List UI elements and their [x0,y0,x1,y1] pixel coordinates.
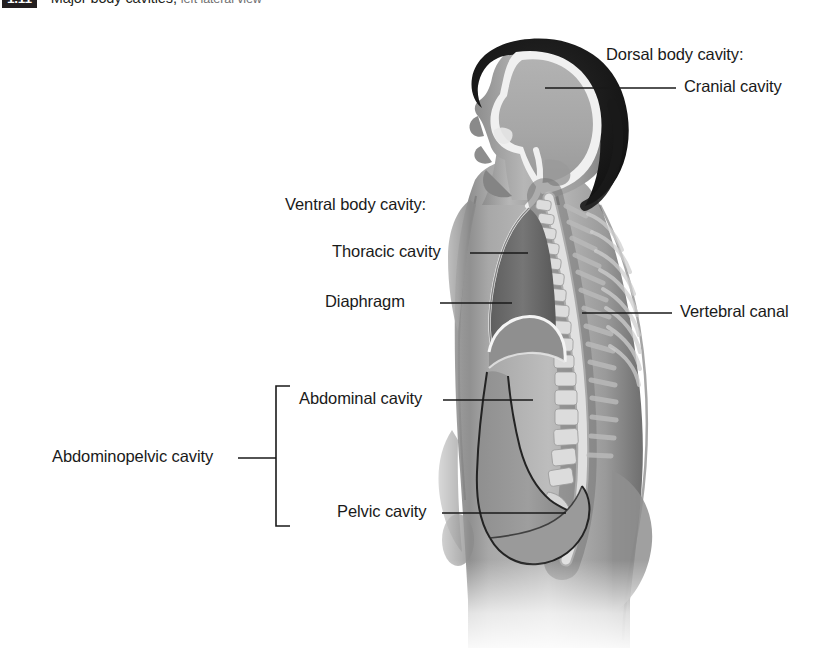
bottom-fade [440,560,660,657]
figure-container: 1.11 Major body cavities, left lateral v… [0,0,833,657]
label-abdominal-cavity: Abdominal cavity [299,389,422,408]
label-vertebral-canal: Vertebral canal [680,302,789,321]
label-pelvic-cavity: Pelvic cavity [337,502,426,521]
label-ventral-body-cavity: Ventral body cavity: [285,195,426,214]
label-abdominopelvic-cavity: Abdominopelvic cavity [52,447,213,466]
label-thoracic-cavity: Thoracic cavity [332,242,441,261]
left-fade [430,150,470,630]
bracket-abdominopelvic [276,386,290,526]
label-diaphragm: Diaphragm [325,292,405,311]
label-cranial-cavity: Cranial cavity [684,77,782,96]
label-dorsal-body-cavity: Dorsal body cavity: [606,45,744,64]
lips-profile [474,146,492,164]
anatomy-illustration [0,0,833,657]
